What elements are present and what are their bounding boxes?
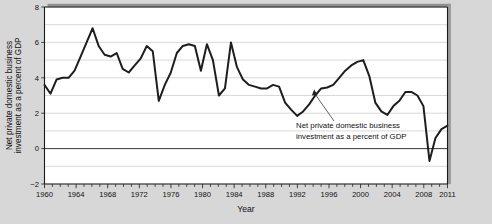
x-tick-label: 1980 [194, 190, 211, 199]
y-tick-label: 6 [35, 38, 39, 47]
x-tick-label: 1968 [99, 190, 116, 199]
annotation-text-line2: investment as a percent of GDP [296, 132, 407, 141]
x-tick-label: 1964 [68, 190, 85, 199]
x-tick-label: 2008 [415, 190, 432, 199]
x-tick-label: 1996 [321, 190, 338, 199]
y-axis-tick-labels: 86420−2 [30, 3, 39, 189]
y-tick-label: 2 [35, 109, 39, 118]
y-tick-label: 4 [35, 74, 39, 83]
x-tick-label: 1988 [257, 190, 274, 199]
x-tick-label: 1972 [131, 190, 148, 199]
y-tick-label: −2 [30, 180, 39, 189]
y-axis-title-line1: Net private domestic business [5, 41, 14, 150]
x-axis-ticks [45, 184, 448, 188]
y-axis-title: Net private domestic business investment… [5, 37, 24, 154]
y-tick-label: 0 [35, 144, 39, 153]
chart-figure: 86420−2 19601964196819721976198019841988… [0, 0, 492, 224]
x-tick-label: 1976 [162, 190, 179, 199]
y-axis-title-line2: investment as a percent of GDP [14, 37, 23, 154]
annotation-text-line1: Net private domestic business [296, 121, 400, 130]
line-chart-svg: 86420−2 19601964196819721976198019841988… [0, 0, 492, 224]
x-tick-label: 2004 [384, 190, 401, 199]
x-tick-label: 1992 [289, 190, 306, 199]
x-axis-tick-labels: 1960196419681972197619801984198819921996… [36, 190, 456, 199]
x-axis-title: Year [237, 204, 255, 214]
x-tick-label: 2000 [352, 190, 369, 199]
x-tick-label: 1960 [36, 190, 53, 199]
x-tick-label: 2011 [439, 190, 455, 199]
y-tick-label: 8 [35, 3, 39, 12]
x-tick-label: 1984 [226, 190, 243, 199]
